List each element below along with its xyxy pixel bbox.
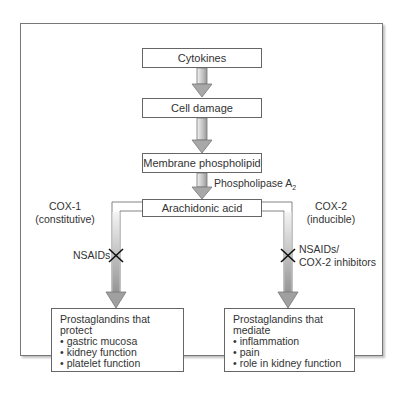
- outcome-mediate-heading: Prostaglandins that mediate: [233, 314, 346, 336]
- arrow-cytokines-to-cell-damage: [192, 68, 212, 97]
- inhibitor-left-label: NSAIDs: [73, 249, 110, 262]
- node-cell-damage-label: Cell damage: [171, 102, 233, 114]
- cox2-label: COX-2 (inducible): [296, 200, 366, 226]
- cox1-type: (constitutive): [30, 213, 100, 226]
- nsaids-slash-text: NSAIDs/: [299, 243, 376, 256]
- inhibitor-right-label: NSAIDs/ COX-2 inhibitors: [299, 243, 376, 269]
- node-arachidonic-acid: Arachidonic acid: [142, 199, 262, 217]
- node-membrane-label: Membrane phospholipid: [143, 157, 260, 169]
- arrow-cell-damage-to-membrane: [192, 118, 212, 153]
- node-cytokines: Cytokines: [142, 48, 262, 68]
- cox1-name: COX-1: [30, 200, 100, 213]
- outcome-protect-heading: Prostaglandins that protect: [60, 314, 175, 336]
- cox1-label: COX-1 (constitutive): [30, 200, 100, 226]
- phospholipase-text: Phospholipase A: [214, 177, 292, 189]
- list-item: platelet function: [60, 358, 175, 369]
- cox2-inhibitors-text: COX-2 inhibitors: [299, 256, 376, 269]
- outcome-protect-list: gastric mucosa kidney function platelet …: [60, 336, 175, 369]
- node-arachidonic-label: Arachidonic acid: [162, 202, 243, 214]
- list-item: role in kidney function: [233, 358, 346, 369]
- arrow-membrane-to-arachidonic: [192, 173, 212, 199]
- outcome-mediate: Prostaglandins that mediate inflammation…: [224, 308, 355, 372]
- outcome-protect: Prostaglandins that protect gastric muco…: [51, 308, 184, 372]
- node-membrane-phospholipid: Membrane phospholipid: [142, 153, 262, 173]
- enzyme-phospholipase-label: Phospholipase A2: [214, 177, 296, 194]
- cox2-type: (inducible): [296, 213, 366, 226]
- phospholipase-subscript: 2: [292, 184, 296, 191]
- node-cell-damage: Cell damage: [142, 98, 262, 118]
- cox2-name: COX-2: [296, 200, 366, 213]
- nsaids-text: NSAIDs: [73, 249, 110, 261]
- node-cytokines-label: Cytokines: [178, 52, 226, 64]
- outcome-mediate-list: inflammation pain role in kidney functio…: [233, 336, 346, 369]
